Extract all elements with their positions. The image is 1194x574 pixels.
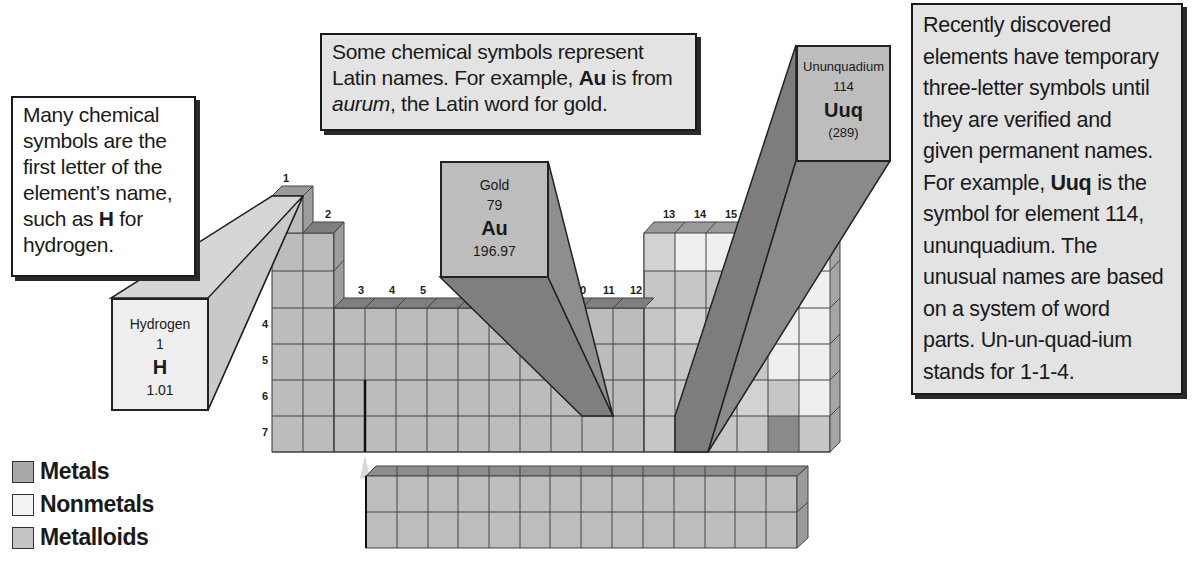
element-symbol: Uuq	[798, 97, 889, 123]
period-number-4: 4	[262, 318, 268, 330]
callout-line: parts. Un-un-quad-ium	[923, 325, 1171, 357]
legend-item-metalloids: Metalloids	[12, 521, 154, 554]
callout-line: aurum, the Latin word for gold.	[332, 91, 685, 117]
callout-line: three-letter symbols until	[923, 73, 1171, 105]
group-number-10: 0	[580, 284, 586, 296]
latin-names-callout: Some chemical symbols represent Latin na…	[320, 33, 697, 131]
callout-line: element’s name,	[23, 180, 184, 206]
atomic-mass: 1.01	[113, 380, 207, 400]
callout-line: unusual names are based	[923, 262, 1171, 294]
callout-line: For example, Uuq is the	[923, 168, 1171, 200]
period-number-7: 7	[262, 426, 268, 438]
callout-line: elements have temporary	[923, 42, 1171, 74]
callout-line: given permanent names.	[923, 136, 1171, 168]
ununquadium-tile: Ununquadium 114 Uuq (289)	[796, 45, 891, 162]
group-number-4: 4	[389, 284, 395, 296]
element-name: Ununquadium	[798, 57, 889, 77]
period-number-6: 6	[262, 390, 268, 402]
callout-line: Many chemical	[23, 102, 184, 128]
legend-item-metals: Metals	[12, 455, 154, 488]
atomic-number: 114	[798, 77, 889, 97]
callout-line: they are verified and	[923, 105, 1171, 137]
legend-label: Metalloids	[40, 524, 148, 551]
group-number-11: 11	[603, 284, 615, 296]
hydrogen-callout: Many chemical symbols are the first lett…	[11, 96, 196, 277]
metalloids-swatch-icon	[12, 527, 34, 549]
atomic-mass: (289)	[798, 123, 889, 143]
dark-cell	[768, 416, 799, 452]
callout-line: symbols are the	[23, 128, 184, 154]
element-symbol: H	[113, 354, 207, 380]
group-number-15: 15	[725, 208, 737, 220]
temporary-symbols-callout: Recently discovered elements have tempor…	[911, 3, 1183, 395]
element-name: Hydrogen	[113, 314, 207, 334]
group-number-3: 3	[358, 284, 364, 296]
group-number-12: 12	[630, 284, 642, 296]
group-number-5: 5	[420, 284, 426, 296]
group-number-14: 14	[694, 208, 706, 220]
group-number-2: 2	[325, 208, 331, 220]
legend-label: Nonmetals	[40, 491, 154, 518]
callout-line: stands for 1-1-4.	[923, 357, 1171, 389]
callout-line: such as H for	[23, 206, 184, 232]
callout-line: symbol for element 114,	[923, 199, 1171, 231]
atomic-mass: 196.97	[442, 241, 547, 261]
callout-line: on a system of word	[923, 294, 1171, 326]
callout-line: first letter of the	[23, 154, 184, 180]
group-number-13: 13	[663, 208, 675, 220]
hydrogen-tile: Hydrogen 1 H 1.01	[111, 298, 209, 411]
legend: Metals Nonmetals Metalloids	[12, 455, 154, 554]
callout-line: hydrogen.	[23, 232, 184, 258]
callout-line: Latin names. For example, Au is from	[332, 65, 685, 91]
metals-swatch-icon	[12, 461, 34, 483]
nonmetals-swatch-icon	[12, 494, 34, 516]
callout-line: Some chemical symbols represent	[332, 39, 685, 65]
atomic-number: 1	[113, 334, 207, 354]
group-number-1: 1	[283, 172, 289, 184]
callout-line: ununquadium. The	[923, 231, 1171, 263]
atomic-number: 79	[442, 195, 547, 215]
element-symbol: Au	[442, 215, 547, 241]
period-number-5: 5	[262, 354, 268, 366]
f-block	[366, 466, 808, 548]
element-name: Gold	[442, 175, 547, 195]
legend-item-nonmetals: Nonmetals	[12, 488, 154, 521]
legend-label: Metals	[40, 458, 109, 485]
gold-tile: Gold 79 Au 196.97	[440, 161, 549, 278]
callout-line: Recently discovered	[923, 10, 1171, 42]
